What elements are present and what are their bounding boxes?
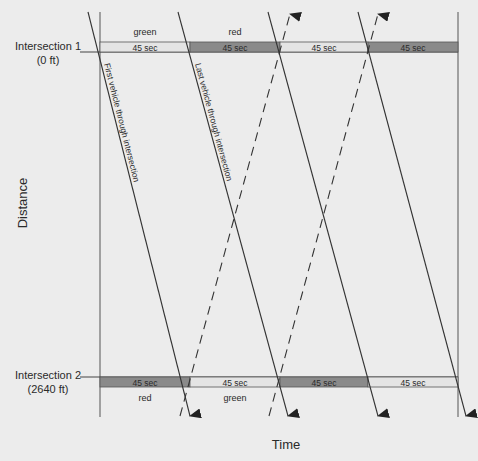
- intersection1-name: Intersection 1: [15, 40, 81, 52]
- trajectory-4: [358, 12, 466, 416]
- top-red-label: red: [228, 27, 241, 37]
- x-axis-label: Time: [272, 437, 300, 452]
- int1-phase-2-label: 45 sec: [222, 43, 248, 53]
- int2-phase-1-label: 45 sec: [132, 378, 158, 388]
- intersection1-distance: (0 ft): [37, 54, 60, 66]
- int2-phase-2-label: 45 sec: [222, 378, 248, 388]
- int1-phase-1-label: 45 sec: [132, 43, 158, 53]
- top-green-label: green: [133, 27, 156, 37]
- int2-phase-3-label: 45 sec: [311, 378, 337, 388]
- int2-phase-4-label: 45 sec: [400, 378, 426, 388]
- intersection2-name: Intersection 2: [15, 369, 81, 381]
- int1-phase-4-label: 45 sec: [400, 43, 426, 53]
- intersection2-signal-bar: 45 sec 45 sec 45 sec 45 sec: [80, 377, 458, 388]
- trajectory-first-vehicle: [88, 12, 190, 416]
- time-space-diagram: 45 sec 45 sec 45 sec 45 sec green red 45…: [0, 0, 478, 461]
- trajectory-last-vehicle: [178, 12, 288, 416]
- trajectory-3: [268, 12, 378, 416]
- y-axis-label: Distance: [15, 178, 30, 229]
- intersection2-distance: (2640 ft): [28, 383, 69, 395]
- last-vehicle-annotation: Last vehicle through intersection: [193, 62, 235, 183]
- bottom-green-label: green: [223, 393, 246, 403]
- int1-phase-3-label: 45 sec: [311, 43, 337, 53]
- first-vehicle-annotation: First vehicle through intersection: [102, 62, 142, 183]
- intersection1-signal-bar: 45 sec 45 sec 45 sec 45 sec: [80, 42, 458, 53]
- bottom-red-label: red: [138, 393, 151, 403]
